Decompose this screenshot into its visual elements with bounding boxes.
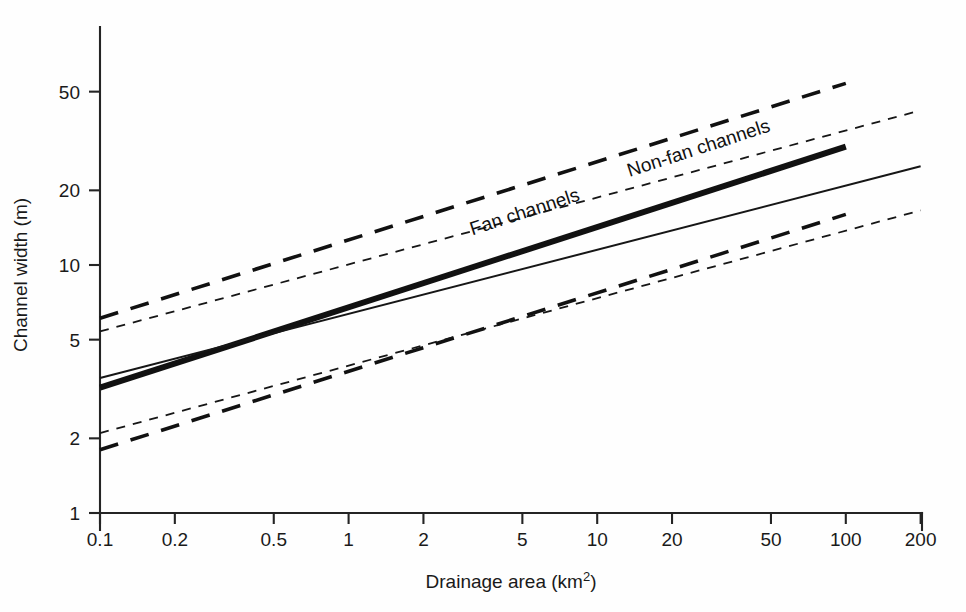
x-tick-label: 20 — [661, 529, 682, 550]
x-tick-label: 0.2 — [162, 529, 188, 550]
x-tick-label: 50 — [760, 529, 781, 550]
y-axis-title: Channel width (m) — [10, 198, 31, 352]
x-axis-title-text: Drainage area (km2) — [426, 569, 597, 592]
y-tick-label: 10 — [59, 255, 80, 276]
x-tick-label: 0.5 — [261, 529, 287, 550]
x-axis-title-superscript: 2 — [583, 569, 590, 584]
series-annotation-label: Fan channels — [467, 184, 582, 239]
series-line — [100, 147, 846, 388]
x-axis-title-tail: ) — [590, 571, 596, 592]
series-line — [100, 166, 921, 378]
confidence-bands — [100, 83, 921, 449]
x-axis-ticks: 0.10.20.5125102050100200 — [87, 513, 937, 550]
band-line — [100, 83, 846, 318]
chart-figure: 0.10.20.5125102050100200 125102050 Fan c… — [0, 0, 966, 612]
y-axis-ticks: 125102050 — [59, 82, 100, 524]
x-tick-label: 200 — [905, 529, 937, 550]
y-tick-label: 2 — [69, 428, 80, 449]
x-tick-label: 100 — [830, 529, 862, 550]
y-tick-label: 5 — [69, 330, 80, 351]
x-tick-label: 10 — [587, 529, 608, 550]
x-tick-label: 0.1 — [87, 529, 113, 550]
x-axis-title-main: Drainage area (km — [426, 571, 583, 592]
data-series — [100, 147, 921, 388]
x-axis-title: Drainage area (km2) — [426, 569, 597, 592]
x-tick-label: 2 — [418, 529, 429, 550]
y-tick-label: 50 — [59, 82, 80, 103]
y-axis-title-text: Channel width (m) — [10, 198, 31, 352]
y-tick-label: 1 — [69, 503, 80, 524]
band-line — [100, 214, 846, 449]
chart-svg: 0.10.20.5125102050100200 125102050 Fan c… — [0, 0, 966, 612]
y-tick-label: 20 — [59, 180, 80, 201]
band-line — [100, 210, 921, 433]
x-tick-label: 5 — [517, 529, 528, 550]
x-tick-label: 1 — [343, 529, 354, 550]
